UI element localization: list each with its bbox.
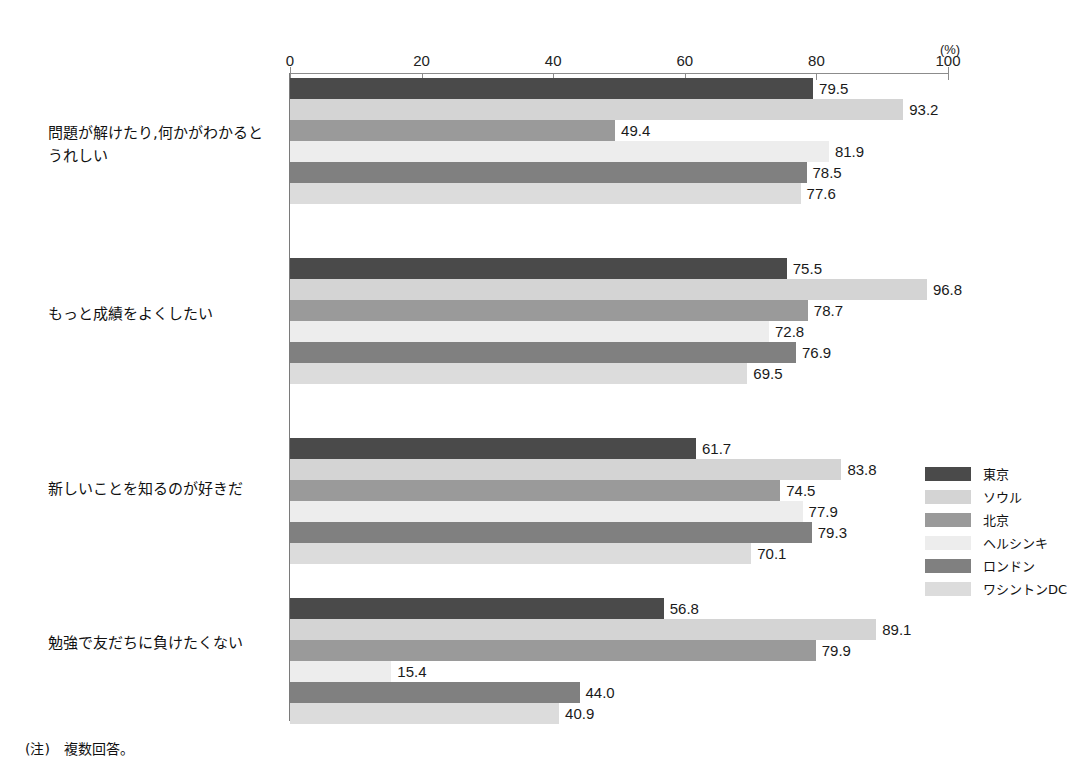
category-label-1: 問題が解けたり,何かがわかると うれしい <box>48 122 283 167</box>
bar-value-label-3-2: 83.8 <box>847 459 876 480</box>
legend-swatch-icon-1 <box>925 467 971 481</box>
bar-2-6 <box>290 363 747 384</box>
bar-value-label-2-2: 96.8 <box>933 279 962 300</box>
legend-swatch-icon-4 <box>925 536 971 550</box>
bar-2-5 <box>290 342 796 363</box>
legend-label-2: ソウル <box>983 487 1022 506</box>
bar-value-label-1-6: 77.6 <box>807 183 836 204</box>
bar-2-4 <box>290 321 769 342</box>
axis-top-line <box>290 73 948 74</box>
axis-tick-label-60: 60 <box>676 52 693 69</box>
legend-swatch-icon-6 <box>925 582 971 596</box>
bar-value-label-3-5: 79.3 <box>818 522 847 543</box>
category-label-4: 勉強で友だちに負けたくない <box>48 632 283 655</box>
bar-value-label-3-4: 77.9 <box>809 501 838 522</box>
bar-value-label-3-6: 70.1 <box>757 543 786 564</box>
legend-label-4: ヘルシンキ <box>983 533 1048 552</box>
legend-item-1[interactable]: 東京 <box>925 462 1067 485</box>
legend-item-3[interactable]: 北京 <box>925 508 1067 531</box>
bar-3-1 <box>290 438 696 459</box>
bar-value-label-2-1: 75.5 <box>793 258 822 279</box>
bar-4-2 <box>290 619 876 640</box>
bar-2-1 <box>290 258 787 279</box>
category-label-3: 新しいことを知るのが好きだ <box>48 478 283 501</box>
category-label-2: もっと成績をよくしたい <box>48 303 283 326</box>
bar-1-1 <box>290 78 813 99</box>
bar-value-label-4-1: 56.8 <box>670 598 699 619</box>
bar-4-6 <box>290 703 559 724</box>
bar-value-label-4-4: 15.4 <box>397 661 426 682</box>
bar-value-label-1-2: 93.2 <box>909 99 938 120</box>
legend-label-1: 東京 <box>983 464 1009 483</box>
bar-value-label-1-5: 78.5 <box>813 162 842 183</box>
legend-item-5[interactable]: ロンドン <box>925 554 1067 577</box>
bar-value-label-1-1: 79.5 <box>819 78 848 99</box>
axis-tick-mark-80 <box>816 73 817 80</box>
bar-value-label-4-3: 79.9 <box>822 640 851 661</box>
chart-note: (注) 複数回答。 <box>25 738 134 758</box>
axis-tick-label-40: 40 <box>545 52 562 69</box>
bar-1-6 <box>290 183 801 204</box>
chart-legend: 東京ソウル北京ヘルシンキロンドンワシントンDC <box>925 462 1067 600</box>
axis-tick-label-20: 20 <box>413 52 430 69</box>
bar-2-3 <box>290 300 808 321</box>
axis-tick-mark-100 <box>948 67 949 80</box>
legend-label-3: 北京 <box>983 510 1009 529</box>
bar-3-2 <box>290 459 841 480</box>
bar-value-label-4-2: 89.1 <box>882 619 911 640</box>
bar-4-5 <box>290 682 580 703</box>
legend-item-6[interactable]: ワシントンDC <box>925 577 1067 600</box>
bar-value-label-3-1: 61.7 <box>702 438 731 459</box>
legend-item-4[interactable]: ヘルシンキ <box>925 531 1067 554</box>
bar-1-5 <box>290 162 807 183</box>
bar-value-label-1-4: 81.9 <box>835 141 864 162</box>
bar-value-label-1-3: 49.4 <box>621 120 650 141</box>
legend-swatch-icon-2 <box>925 490 971 504</box>
bar-3-3 <box>290 480 780 501</box>
bar-4-4 <box>290 661 391 682</box>
bar-value-label-2-6: 69.5 <box>753 363 782 384</box>
bar-value-label-2-4: 72.8 <box>775 321 804 342</box>
legend-label-6: ワシントンDC <box>983 579 1067 598</box>
bar-3-6 <box>290 543 751 564</box>
legend-swatch-icon-3 <box>925 513 971 527</box>
bar-value-label-3-3: 74.5 <box>786 480 815 501</box>
bar-1-2 <box>290 99 903 120</box>
bar-3-5 <box>290 522 812 543</box>
bar-value-label-2-5: 76.9 <box>802 342 831 363</box>
bar-value-label-4-5: 44.0 <box>586 682 615 703</box>
legend-swatch-icon-5 <box>925 559 971 573</box>
legend-item-2[interactable]: ソウル <box>925 485 1067 508</box>
bar-2-2 <box>290 279 927 300</box>
legend-label-5: ロンドン <box>983 556 1035 575</box>
bar-value-label-4-6: 40.9 <box>565 703 594 724</box>
bar-value-label-2-3: 78.7 <box>814 300 843 321</box>
bar-1-3 <box>290 120 615 141</box>
bar-3-4 <box>290 501 803 522</box>
bar-4-1 <box>290 598 664 619</box>
bar-4-3 <box>290 640 816 661</box>
axis-tick-label-80: 80 <box>808 52 825 69</box>
bar-chart: (%) 020406080100 問題が解けたり,何かがわかると うれしいもっと… <box>0 0 1085 780</box>
bar-1-4 <box>290 141 829 162</box>
